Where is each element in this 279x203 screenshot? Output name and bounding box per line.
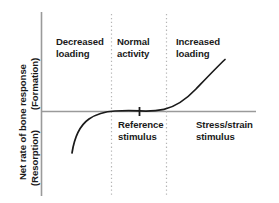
x-axis-title: Stress/strain stimulus (196, 119, 258, 142)
y-axis-direction-resorption: (Resorption) (29, 130, 40, 186)
zone-label-increased-loading: Increased loading (176, 36, 231, 59)
y-axis-title: Net rate of bone response (17, 64, 28, 180)
reference-stimulus-label: Reference stimulus (118, 119, 172, 142)
zone-label-normal-activity: Normal activity (117, 36, 165, 59)
zone-label-decreased-loading: Decreased loading (56, 36, 108, 59)
y-axis-direction-formation: (Formation) (29, 58, 40, 110)
chart-canvas (0, 0, 279, 203)
bone-response-chart: Decreased loading Normal activity Increa… (0, 0, 279, 203)
